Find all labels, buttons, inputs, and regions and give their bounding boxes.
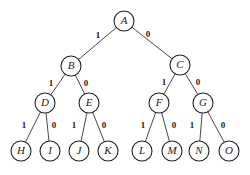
binary-tree-diagram: 10101010101010 ABCDEFGHIJKLMNO [0, 0, 250, 175]
edge-label-D-I: 0 [52, 120, 57, 130]
node-label: N [194, 144, 203, 156]
tree-node-l: L [132, 141, 152, 161]
edge-F-L [145, 112, 155, 141]
edge-label-E-J: 1 [72, 120, 77, 130]
edge-G-N [200, 113, 202, 141]
edge-F-M [162, 113, 170, 142]
edge-label-F-M: 0 [172, 120, 177, 130]
tree-node-n: N [189, 141, 209, 161]
edge-label-C-F: 1 [162, 77, 167, 87]
tree-node-g: G [193, 93, 213, 113]
edge-label-A-C: 0 [146, 29, 151, 39]
edge-A-C [132, 27, 172, 59]
edge-label-E-K: 0 [102, 120, 107, 130]
nodes-layer: ABCDEFGHIJKLMNO [11, 11, 239, 161]
node-label: C [176, 58, 184, 70]
tree-node-c: C [170, 55, 190, 75]
node-label: H [16, 144, 26, 156]
tree-node-d: D [35, 93, 55, 113]
edge-label-B-E: 0 [84, 78, 89, 88]
edge-D-H [25, 112, 40, 142]
edge-labels-layer: 10101010101010 [22, 29, 226, 130]
tree-node-a: A [114, 11, 134, 31]
edge-label-B-D: 1 [49, 78, 54, 88]
edge-D-I [46, 113, 49, 141]
node-label: E [85, 96, 93, 108]
tree-node-h: H [11, 141, 31, 161]
node-label: G [199, 96, 207, 108]
node-label: F [155, 96, 163, 108]
edge-label-G-N: 1 [190, 120, 195, 130]
node-label: M [166, 144, 177, 156]
edge-label-D-H: 1 [22, 120, 27, 130]
tree-node-b: B [61, 56, 81, 76]
edge-label-G-O: 0 [221, 120, 226, 130]
tree-node-o: O [219, 141, 239, 161]
tree-node-f: F [149, 93, 169, 113]
edge-label-F-L: 1 [141, 120, 146, 130]
node-label: K [103, 144, 112, 156]
tree-node-k: K [98, 141, 118, 161]
tree-node-e: E [79, 93, 99, 113]
node-label: L [138, 144, 145, 156]
edge-label-C-G: 0 [196, 77, 201, 87]
edge-label-A-B: 1 [96, 30, 101, 40]
node-label: A [120, 14, 128, 26]
tree-node-m: M [162, 141, 182, 161]
tree-node-i: I [40, 141, 60, 161]
node-label: O [225, 144, 233, 156]
tree-node-j: J [69, 141, 89, 161]
node-label: B [68, 59, 75, 71]
edge-E-J [81, 113, 87, 141]
node-label: D [40, 96, 49, 108]
